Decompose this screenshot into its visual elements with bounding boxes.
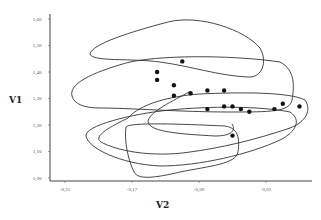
x-tick-label: -0,25 bbox=[60, 187, 71, 193]
x-tick-label: -0,01 bbox=[261, 187, 272, 193]
contour-lower-left bbox=[86, 107, 296, 166]
x-axis-title: V2 bbox=[155, 200, 169, 210]
x-tick-labels: -0,25-0,17-0,09-0,01 bbox=[60, 181, 272, 193]
data-point bbox=[180, 59, 184, 63]
contour-top bbox=[90, 20, 264, 77]
data-point bbox=[205, 88, 209, 92]
y-tick-label: 1,10 bbox=[33, 149, 42, 155]
y-tick-label: 1,40 bbox=[33, 70, 42, 76]
y-tick-labels: 1,001,101,201,301,401,501,60 bbox=[33, 17, 50, 182]
data-point bbox=[281, 102, 285, 106]
data-point bbox=[172, 94, 176, 98]
data-point bbox=[205, 107, 209, 111]
axes bbox=[50, 14, 312, 181]
contour-bottom-box bbox=[125, 124, 238, 177]
data-point bbox=[188, 91, 192, 95]
y-tick-label: 1,60 bbox=[33, 17, 42, 23]
y-tick-label: 1,50 bbox=[33, 43, 42, 49]
y-tick-label: 1,20 bbox=[33, 123, 42, 129]
scatter-chart: 1,001,101,201,301,401,501,60 -0,25-0,17-… bbox=[0, 0, 321, 220]
data-point bbox=[297, 104, 301, 108]
contour-middle bbox=[99, 93, 308, 154]
x-tick-label: -0,09 bbox=[194, 187, 205, 193]
x-tick-label: -0,17 bbox=[127, 187, 138, 193]
y-tick-label: 1,00 bbox=[33, 176, 42, 182]
data-point bbox=[230, 133, 234, 137]
data-point bbox=[155, 78, 159, 82]
data-point bbox=[247, 110, 251, 114]
y-axis-title: V1 bbox=[8, 95, 22, 105]
contour-inner-tail bbox=[148, 92, 233, 136]
data-point bbox=[172, 83, 176, 87]
data-point bbox=[222, 104, 226, 108]
contour-outlines bbox=[72, 20, 308, 177]
contour-upper-wide bbox=[72, 57, 294, 112]
data-point bbox=[222, 88, 226, 92]
data-point bbox=[239, 107, 243, 111]
data-point bbox=[272, 107, 276, 111]
data-point bbox=[230, 104, 234, 108]
data-point bbox=[155, 70, 159, 74]
y-tick-label: 1,30 bbox=[33, 96, 42, 102]
